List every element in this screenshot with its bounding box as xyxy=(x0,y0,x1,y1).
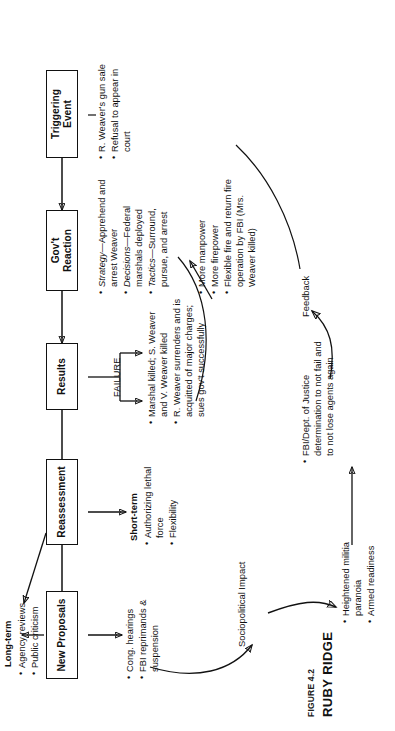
list-item: Marshal killed; S. Weaver and V. Weaver … xyxy=(146,296,170,424)
rotated-figure-canvas: FIGURE 4.2 RUBY RIDGE Triggering Event G… xyxy=(0,0,395,731)
list-item: FBI/Dept. of Justice determination to no… xyxy=(300,341,336,463)
bullets-new-proposals: Cong. hearings FBI reprimands & suspensi… xyxy=(124,583,162,679)
bullets-sociopolitical: Heightened militia paranoia Armed readin… xyxy=(340,505,378,623)
list-item: R. Weaver surrenders and is acquitted of… xyxy=(171,296,207,424)
decisions-lead: Decisions xyxy=(122,247,132,287)
edge-label-failure: FAILURE xyxy=(112,357,122,397)
node-triggering-event[interactable]: Triggering Event xyxy=(46,70,78,158)
bullets-govt-reaction: Strategy—Apprehend and arrest Weaver Dec… xyxy=(96,176,171,294)
label-sociopolitical-impact: Sociopolitical Impact xyxy=(236,561,248,647)
figure-ruby-ridge: FIGURE 4.2 RUBY RIDGE Triggering Event G… xyxy=(0,0,395,731)
bullets-triggering-event: R. Weaver's gun sale Refusal to appear i… xyxy=(96,55,134,159)
list-item: Authorizing lethal force xyxy=(142,449,166,545)
label-feedback: Feedback xyxy=(300,276,312,317)
list-item: FBI reprimands & suspension xyxy=(137,583,161,679)
bullets-results: Marshal killed; S. Weaver and V. Weaver … xyxy=(146,296,208,424)
list-item: Strategy—Apprehend and arrest Weaver xyxy=(96,176,120,294)
list-item: Refusal to appear in court xyxy=(109,55,133,159)
list-item: Agency reviews xyxy=(16,579,28,675)
list-item: More manpower xyxy=(196,170,208,294)
tactics-lead: Tactics xyxy=(147,258,157,287)
list-item: R. Weaver's gun sale xyxy=(96,55,108,159)
node-results[interactable]: Results xyxy=(46,343,78,410)
node-new-proposals[interactable]: New Proposals xyxy=(46,591,78,679)
list-item: Cong. hearings xyxy=(124,583,136,679)
bullets-long-term: Agency reviews Public criticism xyxy=(16,579,42,675)
list-item: Flexibility xyxy=(167,449,179,545)
bullets-determination: FBI/Dept. of Justice determination to no… xyxy=(300,341,337,463)
figure-number: FIGURE 4.2 xyxy=(306,669,316,717)
list-item: Decisions—Federal marshals deployed xyxy=(121,176,145,294)
list-item: Tactics—Surround, pursue, and arrest xyxy=(146,176,170,294)
list-item: Armed readiness xyxy=(365,505,377,623)
strategy-lead: Strategy xyxy=(97,252,107,287)
list-item: Flexible fire and return fire operation … xyxy=(222,170,258,294)
header-long-term: Long-term xyxy=(2,621,13,667)
list-item: Heightened militia paranoia xyxy=(340,505,364,623)
list-item: Public criticism xyxy=(29,579,41,675)
figure-title: RUBY RIDGE xyxy=(320,632,335,717)
header-short-term: Short-term xyxy=(128,493,139,541)
list-item: More firepower xyxy=(209,170,221,294)
bullets-short-term: Authorizing lethal force Flexibility xyxy=(142,449,180,545)
node-reassessment[interactable]: Reassessment xyxy=(46,459,78,545)
node-govt-reaction[interactable]: Gov't Reaction xyxy=(46,210,78,291)
bullets-escalation: More manpower More firepower Flexible fi… xyxy=(196,170,259,294)
